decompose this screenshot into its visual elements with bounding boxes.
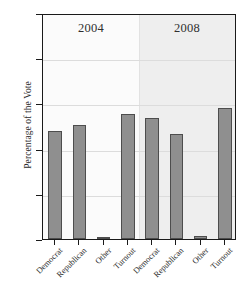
gridline-80 (43, 60, 235, 61)
bar-2004-democrat (48, 131, 62, 239)
bar-2008-republican (170, 134, 184, 239)
x-tick-mark-2004-democrat (54, 240, 55, 245)
bar-2004-republican (73, 125, 87, 239)
x-tick-mark-2008-republican (175, 240, 176, 245)
y-tick-mark-0 (36, 240, 42, 241)
panel-title-2008: 2008 (139, 21, 235, 36)
bar-2008-democrat (145, 118, 159, 239)
gridline-60 (43, 105, 235, 106)
bar-2008-turnout (218, 108, 232, 239)
bar-chart-figure: Percentage of the Vote 020406080100 2004… (0, 0, 248, 304)
bar-2004-turnout (121, 114, 135, 239)
x-tick-mark-2004-republican (78, 240, 79, 245)
x-tick-mark-2008-turnout (224, 240, 225, 245)
x-tick-mark-2008-democrat (151, 240, 152, 245)
x-tick-mark-2004-turnout (127, 240, 128, 245)
x-tick-mark-2004-other (103, 240, 104, 245)
bar-2008-other (194, 236, 208, 239)
x-tick-mark-2008-other (200, 240, 201, 245)
plot-area: 2004 2008 (42, 14, 236, 240)
panel-divider (139, 15, 140, 239)
bar-2004-other (97, 237, 111, 240)
panel-title-2004: 2004 (43, 21, 139, 36)
y-axis-title: Percentage of the Vote (23, 40, 33, 210)
